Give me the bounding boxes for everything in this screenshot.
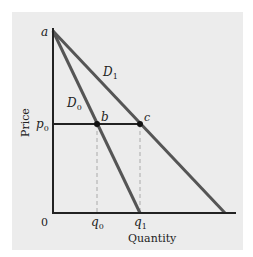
label-b: b [101, 110, 109, 124]
demand-chart: a b c D1 D0 p0 0 q0 q1 Quantity Price [0, 0, 253, 257]
point-c-marker [137, 121, 143, 127]
point-b-marker [94, 121, 100, 127]
y-axis-title: Price [19, 108, 32, 137]
label-origin: 0 [41, 216, 48, 229]
label-p0: p0 [36, 117, 49, 133]
label-a: a [41, 25, 48, 39]
label-c: c [144, 111, 150, 124]
label-q0: q0 [91, 215, 104, 231]
label-d1: D1 [102, 65, 118, 81]
label-q1: q1 [134, 215, 147, 231]
x-axis-title: Quantity [128, 232, 177, 245]
label-d0: D0 [66, 96, 82, 112]
